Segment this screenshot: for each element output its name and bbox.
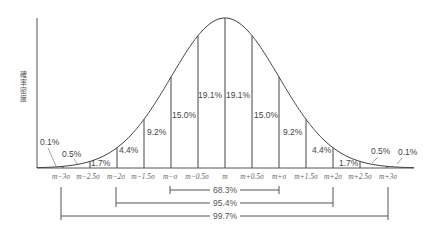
pct-right-4: 4.4%: [312, 145, 332, 155]
pct-right-7: 19.1%: [226, 90, 251, 100]
pct-left-3: 1.7%: [91, 158, 111, 168]
tick-m-1s: m−σ: [163, 172, 177, 181]
normal-distribution-diagram: 確 率 密 度 0.1% 0.5% 1.7% 4.4% 9.2% 15.0% 1…: [0, 0, 442, 241]
tick-m: m: [222, 172, 228, 181]
tick-m+3s: m+3σ: [379, 172, 397, 181]
tick-m+1s: m+σ: [272, 172, 286, 181]
range-68-label: 68.3%: [213, 185, 238, 195]
y-label-char-2: 率: [20, 78, 27, 87]
pct-left-2: 0.5%: [62, 149, 82, 159]
pct-left-4: 4.4%: [119, 145, 139, 155]
y-label-char-1: 確: [20, 70, 27, 79]
tick-m+2.5s: m+2.5σ: [348, 172, 372, 181]
y-label-char-3: 密: [20, 86, 27, 95]
pct-right-2: 0.5%: [371, 146, 391, 156]
range-99-label: 99.7%: [213, 211, 238, 221]
pct-right-6: 15.0%: [254, 110, 279, 120]
tick-m-2s: m−2σ: [107, 172, 125, 181]
pct-left-7: 19.1%: [198, 90, 223, 100]
tick-m+2s: m+2σ: [324, 172, 342, 181]
tick-m+0.5s: m+0.5σ: [240, 172, 264, 181]
y-label-char-4: 度: [20, 94, 27, 103]
pct-right-5: 9.2%: [283, 127, 303, 137]
tick-m-0.5s: m−0.5σ: [185, 172, 209, 181]
tick-m-3s: m−3σ: [52, 172, 70, 181]
x-tick-labels: m−3σ m−2.5σ m−2σ m−1.5σ m−σ m−0.5σ m m+0…: [52, 172, 397, 181]
tick-m-2.5s: m−2.5σ: [76, 172, 100, 181]
range-95-label: 95.4%: [213, 198, 238, 208]
pct-left-6: 15.0%: [172, 110, 197, 120]
pct-right-tail: 0.1%: [398, 147, 418, 157]
tick-m-1.5s: m−1.5σ: [131, 172, 155, 181]
sigma-lines: [63, 18, 387, 168]
pct-right-3: 1.7%: [339, 158, 359, 168]
tick-m+1.5s: m+1.5σ: [294, 172, 318, 181]
y-axis-label: 確 率 密 度: [20, 70, 27, 103]
pct-left-5: 9.2%: [147, 127, 167, 137]
pct-left-tail: 0.1%: [40, 137, 60, 147]
segment-percentages: 0.1% 0.5% 1.7% 4.4% 9.2% 15.0% 19.1% 19.…: [40, 90, 418, 168]
